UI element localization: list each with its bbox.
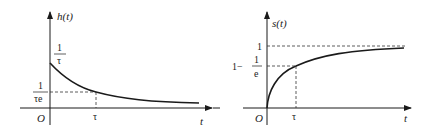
svg-text:1: 1 <box>57 42 62 53</box>
rise-curve <box>267 48 404 108</box>
right-x-label: t <box>404 112 408 124</box>
right-y-label: s(t) <box>272 17 287 30</box>
right-tau-tick-label: τ <box>292 111 296 122</box>
level-expression-label: 1− 1 e <box>232 54 262 79</box>
impulse-response-plot: h(t) t O τ 1 τ 1 τe <box>20 10 212 127</box>
left-y-label: h(t) <box>57 10 73 23</box>
left-tau-tick-label: τ <box>93 111 97 122</box>
svg-text:τ: τ <box>57 55 61 66</box>
decay-curve <box>50 63 199 103</box>
right-origin-label: O <box>255 112 263 124</box>
svg-text:e: e <box>254 68 259 79</box>
step-response-plot: s(t) t O τ 1 1− 1 e <box>213 12 411 125</box>
level-fraction-label: 1 τe <box>33 80 48 104</box>
peak-fraction-label: 1 τ <box>54 42 66 66</box>
svg-text:1−: 1− <box>232 61 243 72</box>
left-x-label: t <box>200 115 204 127</box>
svg-text:τe: τe <box>34 93 43 104</box>
svg-text:1: 1 <box>254 54 259 65</box>
asymptote-label: 1 <box>257 41 262 52</box>
left-origin-label: O <box>37 112 45 124</box>
svg-text:1: 1 <box>38 80 43 91</box>
figure: h(t) t O τ 1 τ 1 τe s(t) t O τ 1 1− 1 <box>0 0 426 133</box>
